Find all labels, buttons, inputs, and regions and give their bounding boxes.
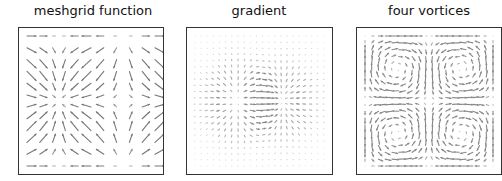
quiver-arrowhead xyxy=(459,165,461,167)
quiver-arrowhead xyxy=(34,35,36,37)
plot-area xyxy=(18,27,164,175)
quiver-arrow xyxy=(432,103,433,104)
quiver-arrow xyxy=(310,79,311,80)
quiver-arrowhead xyxy=(445,73,447,75)
quiver-arrow xyxy=(212,129,213,130)
quiver-arrow xyxy=(297,79,299,81)
quiver-arrowhead xyxy=(446,165,448,167)
quiver-arrow xyxy=(225,135,226,137)
quiver-arrow xyxy=(250,141,251,142)
quiver-arrowhead xyxy=(421,165,423,167)
quiver-arrow xyxy=(250,54,251,55)
quiver-arrowhead xyxy=(477,96,479,98)
quiver-arrowhead xyxy=(216,103,218,105)
quiver-arrow xyxy=(431,43,432,45)
quiver-arrow xyxy=(244,65,245,67)
quiver-arrow xyxy=(206,79,207,80)
quiver-arrow xyxy=(464,62,466,64)
quiver-arrow xyxy=(207,135,208,136)
quiver-arrow xyxy=(399,63,401,64)
quiver-arrow xyxy=(231,116,232,118)
quiver-arrow xyxy=(399,138,401,139)
quiver-arrowhead xyxy=(418,125,420,127)
quiver-arrow xyxy=(230,97,232,98)
quiver-arrow xyxy=(293,140,294,141)
quiver-arrow xyxy=(155,149,163,154)
quiver-arrow xyxy=(275,67,276,69)
quiver-arrowhead xyxy=(418,75,420,77)
quiver-arrow xyxy=(224,77,226,79)
quiver-arrow xyxy=(212,123,214,124)
quiver-arrowhead xyxy=(492,155,494,157)
quiver-arrow xyxy=(219,66,220,67)
quiver-arrow xyxy=(213,141,214,142)
quiver-arrow xyxy=(211,110,214,111)
quiver-arrowhead xyxy=(394,117,396,119)
quiver-arrow xyxy=(391,132,392,134)
quiver-arrow xyxy=(223,84,225,86)
quiver-arrow xyxy=(219,141,220,142)
quiver-arrow xyxy=(244,71,245,73)
quiver-arrow xyxy=(82,121,91,130)
quiver-arrow xyxy=(275,140,276,141)
quiver-arrow xyxy=(391,68,392,70)
quiver-arrowhead xyxy=(438,75,440,77)
quiver-arrowhead xyxy=(431,76,433,78)
quiver-arrow xyxy=(291,79,293,81)
quiver-arrowhead xyxy=(364,144,366,146)
quiver-arrow xyxy=(457,63,459,64)
quiver-arrow xyxy=(304,73,305,74)
quiver-arrowhead xyxy=(436,35,438,37)
quiver-arrow xyxy=(291,92,294,93)
chart-title: meshgrid function xyxy=(20,3,166,18)
quiver-arrowhead xyxy=(492,130,494,132)
quiver-arrow xyxy=(231,83,232,85)
quiver-arrowhead xyxy=(45,35,47,37)
quiver-arrow xyxy=(155,83,163,90)
quiver-arrow xyxy=(206,123,207,124)
quiver-svg xyxy=(357,28,501,174)
quiver-arrow xyxy=(211,85,213,86)
quiver-arrow xyxy=(305,67,306,68)
quiver-arrowhead xyxy=(411,127,413,129)
quiver-arrowhead xyxy=(162,165,163,167)
quiver-arrowhead xyxy=(296,103,298,105)
quiver-arrow xyxy=(269,134,271,135)
quiver-arrow xyxy=(211,116,213,117)
quiver-arrow xyxy=(486,104,488,105)
quiver-arrow xyxy=(218,78,220,80)
quiver-arrowhead xyxy=(455,56,457,58)
quiver-arrow xyxy=(269,61,270,62)
quiver-arrowhead xyxy=(464,110,466,112)
quiver-arrowhead xyxy=(384,134,386,136)
quiver-arrowhead xyxy=(370,137,372,139)
quiver-arrowhead xyxy=(364,50,366,52)
quiver-arrowhead xyxy=(216,97,218,99)
quiver-arrow xyxy=(305,61,306,62)
quiver-arrow xyxy=(250,66,252,67)
quiver-arrow xyxy=(244,77,246,79)
quiver-arrowhead xyxy=(492,113,494,115)
quiver-arrow xyxy=(275,120,277,122)
quiver-arrowhead xyxy=(452,158,454,160)
quiver-arrow xyxy=(304,79,306,80)
quiver-arrow xyxy=(27,71,36,80)
quiver-arrowhead xyxy=(472,66,474,68)
quiver-arrow xyxy=(155,71,163,80)
quiver-arrowhead xyxy=(416,165,418,167)
quiver-arrowhead xyxy=(467,35,469,37)
quiver-arrow xyxy=(426,43,427,45)
quiver-arrow xyxy=(311,73,312,74)
quiver-arrowhead xyxy=(254,97,256,99)
quiver-arrow xyxy=(298,67,299,68)
quiver-arrowhead xyxy=(452,42,454,44)
quiver-arrow xyxy=(310,116,312,117)
quiver-arrowhead xyxy=(390,35,392,37)
quiver-arrow xyxy=(223,116,225,118)
quiver-arrow xyxy=(155,60,163,68)
quiver-arrowhead xyxy=(403,49,405,51)
quiver-svg xyxy=(19,28,163,174)
quiver-arrowhead xyxy=(391,97,393,99)
quiver-arrow xyxy=(286,92,287,94)
quiver-arrowhead xyxy=(266,85,268,87)
